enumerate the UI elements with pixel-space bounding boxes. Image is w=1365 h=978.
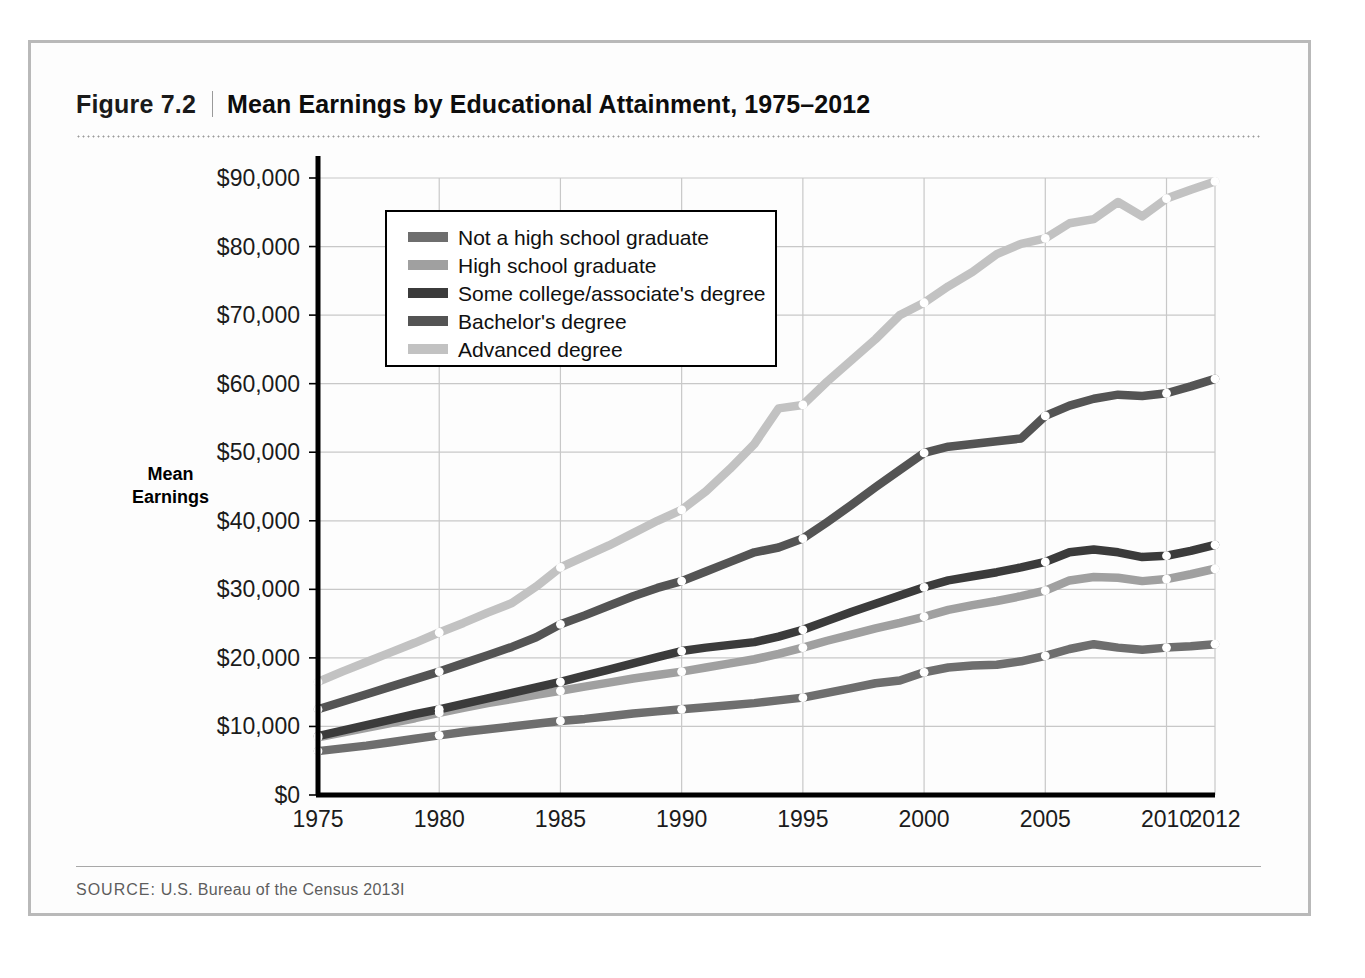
- data-point-marker: [1211, 564, 1220, 573]
- data-point-marker: [1162, 194, 1171, 203]
- x-tick-label: 2012: [1189, 806, 1240, 832]
- x-tick-label: 1995: [777, 806, 828, 832]
- data-point-marker: [920, 612, 929, 621]
- legend-swatch: [408, 260, 448, 270]
- data-point-marker: [1041, 586, 1050, 595]
- x-tick-label: 1980: [414, 806, 465, 832]
- legend-label: Advanced degree: [458, 338, 623, 361]
- legend-box: Not a high school graduateHigh school gr…: [386, 211, 776, 366]
- data-point-marker: [1162, 551, 1171, 560]
- data-point-marker: [920, 583, 929, 592]
- y-axis-title-line2: Earnings: [113, 486, 228, 509]
- data-point-marker: [677, 577, 686, 586]
- data-point-marker: [798, 401, 807, 410]
- data-point-marker: [798, 693, 807, 702]
- legend-label: High school graduate: [458, 254, 656, 277]
- x-tick-labels-group: 197519801985199019952000200520102012: [292, 806, 1240, 832]
- y-tick-label: $40,000: [217, 508, 300, 534]
- data-point-marker: [920, 298, 929, 307]
- legend-label: Not a high school graduate: [458, 226, 709, 249]
- data-point-marker: [798, 643, 807, 652]
- data-point-marker: [435, 667, 444, 676]
- legend-swatch: [408, 344, 448, 354]
- y-tick-label: $50,000: [217, 439, 300, 465]
- data-point-marker: [798, 625, 807, 634]
- data-point-marker: [677, 505, 686, 514]
- x-tick-label: 2000: [898, 806, 949, 832]
- data-point-marker: [1041, 651, 1050, 660]
- x-tick-label: 1985: [535, 806, 586, 832]
- y-tick-label: $60,000: [217, 371, 300, 397]
- data-point-marker: [1211, 177, 1220, 186]
- data-point-marker: [435, 705, 444, 714]
- data-point-marker: [1162, 389, 1171, 398]
- figure-frame: Figure 7.2 Mean Earnings by Educational …: [28, 40, 1311, 916]
- data-point-marker: [1211, 540, 1220, 549]
- data-point-marker: [556, 563, 565, 572]
- data-point-marker: [1211, 640, 1220, 649]
- data-point-marker: [920, 449, 929, 458]
- y-tick-label: $90,000: [217, 165, 300, 191]
- data-point-marker: [1041, 558, 1050, 567]
- source-rule: [76, 866, 1261, 867]
- data-point-marker: [556, 620, 565, 629]
- y-axis-title-line1: Mean: [113, 463, 228, 486]
- legend-swatch: [408, 288, 448, 298]
- series-line: [318, 545, 1215, 736]
- data-point-marker: [556, 686, 565, 695]
- y-tick-label: $30,000: [217, 576, 300, 602]
- x-tick-label: 2005: [1020, 806, 1071, 832]
- data-point-marker: [677, 667, 686, 676]
- y-tick-label: $20,000: [217, 645, 300, 671]
- source-label: SOURCE:: [76, 881, 156, 898]
- y-tick-label: $0: [274, 782, 300, 808]
- data-point-marker: [556, 717, 565, 726]
- data-point-marker: [435, 731, 444, 740]
- data-point-marker: [435, 628, 444, 637]
- data-point-marker: [556, 677, 565, 686]
- y-tick-labels-group: $0$10,000$20,000$30,000$40,000$50,000$60…: [217, 165, 300, 808]
- x-tick-label: 2010: [1141, 806, 1192, 832]
- data-point-marker: [1041, 411, 1050, 420]
- legend-label: Some college/associate's degree: [458, 282, 766, 305]
- data-point-marker: [1041, 234, 1050, 243]
- data-point-marker: [1211, 374, 1220, 383]
- data-point-marker: [677, 705, 686, 714]
- source-citation: U.S. Bureau of the Census 2013I: [156, 881, 405, 898]
- series-line: [318, 569, 1215, 738]
- y-tick-label: $70,000: [217, 302, 300, 328]
- y-tick-label: $80,000: [217, 234, 300, 260]
- data-point-marker: [798, 534, 807, 543]
- data-point-marker: [1162, 575, 1171, 584]
- data-point-marker: [677, 647, 686, 656]
- legend-swatch: [408, 316, 448, 326]
- x-tick-label: 1990: [656, 806, 707, 832]
- legend-swatch: [408, 232, 448, 242]
- source-note: SOURCE: U.S. Bureau of the Census 2013I: [76, 881, 405, 899]
- data-point-marker: [920, 668, 929, 677]
- legend-label: Bachelor's degree: [458, 310, 627, 333]
- y-tick-label: $10,000: [217, 713, 300, 739]
- y-axis-title: Mean Earnings: [113, 463, 228, 508]
- data-point-marker: [1162, 643, 1171, 652]
- x-tick-label: 1975: [292, 806, 343, 832]
